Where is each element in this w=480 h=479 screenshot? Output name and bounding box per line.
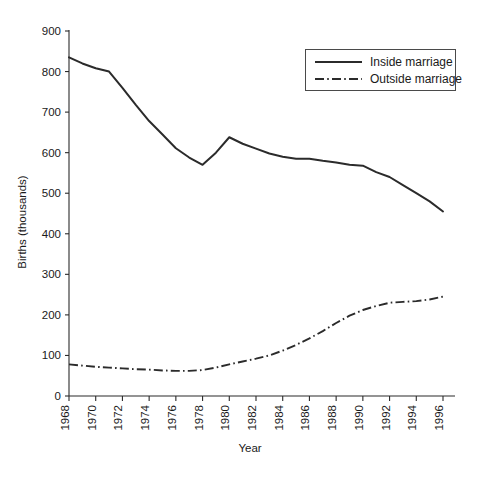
x-axis-ticks: 1968197019721974197619781980198219841986… — [59, 396, 445, 431]
y-tick-label: 100 — [42, 349, 61, 361]
x-tick-label: 1982 — [246, 405, 258, 431]
y-tick-label: 0 — [55, 390, 61, 402]
x-tick-label: 1994 — [406, 404, 418, 430]
x-tick-label: 1980 — [219, 405, 231, 431]
y-tick-label: 700 — [42, 106, 61, 118]
y-tick-label: 200 — [42, 309, 61, 321]
legend-label-outside-marriage: Outside marriage — [370, 72, 462, 86]
x-tick-label: 1992 — [380, 405, 392, 431]
x-tick-label: 1986 — [299, 405, 311, 431]
x-tick-label: 1988 — [326, 405, 338, 431]
x-tick-label: 1978 — [193, 405, 205, 431]
x-tick-label: 1984 — [273, 404, 285, 430]
legend-label-inside-marriage: Inside marriage — [370, 55, 453, 69]
series-line-outside-marriage — [69, 297, 443, 371]
x-tick-label: 1976 — [166, 405, 178, 431]
y-tick-label: 600 — [42, 147, 61, 159]
x-tick-label: 1968 — [59, 405, 71, 431]
x-tick-label: 1990 — [353, 405, 365, 431]
chart-canvas: 0100200300400500600700800900 19681970197… — [0, 0, 480, 479]
y-tick-label: 900 — [42, 25, 61, 37]
y-axis-ticks: 0100200300400500600700800900 — [42, 25, 69, 402]
y-tick-label: 500 — [42, 187, 61, 199]
y-tick-label: 800 — [42, 66, 61, 78]
chart-legend: Inside marriage Outside marriage — [306, 50, 463, 91]
y-axis-title: Births (thousands) — [16, 175, 28, 268]
x-tick-label: 1972 — [112, 405, 124, 431]
x-tick-label: 1974 — [139, 404, 151, 430]
x-tick-label: 1970 — [86, 405, 98, 431]
y-tick-label: 400 — [42, 228, 61, 240]
x-axis-title: Year — [238, 442, 261, 454]
y-tick-label: 300 — [42, 268, 61, 280]
x-tick-label: 1996 — [433, 405, 445, 431]
births-line-chart: 0100200300400500600700800900 19681970197… — [0, 0, 480, 479]
